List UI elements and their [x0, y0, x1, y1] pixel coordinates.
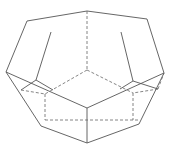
polyhedron-diagram: [0, 0, 171, 146]
edge-bottom-left-to-bottom: [41, 126, 87, 143]
hidden-edge-back-center-to-hidden-left: [45, 70, 87, 94]
visible-edges: [6, 11, 164, 143]
edge-top-left-to-top-center: [27, 11, 87, 21]
edge-inner-left-to-left-low: [21, 80, 36, 90]
hidden-edges: [21, 11, 164, 120]
edge-inner-left-vertical: [36, 32, 51, 80]
edge-bottom-right-to-bottom: [87, 124, 139, 143]
hidden-edge-back-center-to-hidden-right: [87, 70, 133, 93]
edge-inner-right-vertical: [121, 32, 133, 81]
edge-inner-left-to-center: [36, 80, 53, 90]
edge-top-left-to-left: [6, 21, 27, 72]
hidden-edge-left-low-to-hidden-left: [21, 90, 45, 94]
edge-top-right-to-right: [147, 19, 164, 73]
edge-right-to-front-center: [87, 73, 164, 108]
edge-top-center-to-top-right: [87, 11, 147, 19]
edge-right-to-bottom-right: [139, 73, 164, 124]
